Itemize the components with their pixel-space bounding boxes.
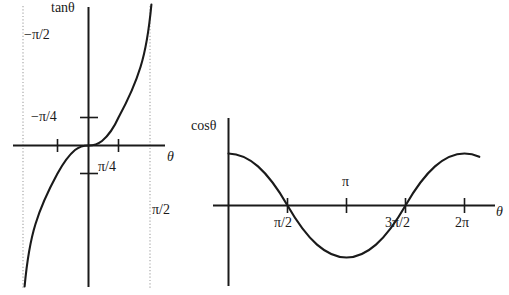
cosine-xtick-label-half-pi: π/2	[274, 216, 292, 230]
tangent-asymptote-label-half-pi: π/2	[152, 203, 170, 217]
cosine-xtick-label-three-half-pi: 3π/2	[385, 216, 410, 230]
cosine-axis-label-x: θ	[496, 205, 503, 219]
tangent-axis-label-y: tanθ	[51, 1, 75, 15]
trig-graphs-svg	[0, 0, 509, 295]
tangent-xtick-label-quarter-pi: π/4	[98, 160, 116, 174]
cosine-xtick-label-pi: π	[342, 175, 349, 189]
tangent-xtick-label-neg-quarter-pi: −π/4	[31, 110, 57, 124]
math-figure-trig-graphs: tanθ θ −π/2 −π/4 π/4 π/2 cosθ θ π/2 π 3π…	[0, 0, 509, 295]
cosine-plot-group	[213, 118, 495, 286]
cosine-axis-label-y: cosθ	[191, 119, 216, 133]
tangent-plot-group	[13, 5, 165, 290]
cosine-xtick-label-two-pi: 2π	[455, 216, 469, 230]
tangent-asymptote-label-neg-half-pi: −π/2	[24, 28, 50, 42]
tangent-axis-label-x: θ	[167, 150, 174, 164]
